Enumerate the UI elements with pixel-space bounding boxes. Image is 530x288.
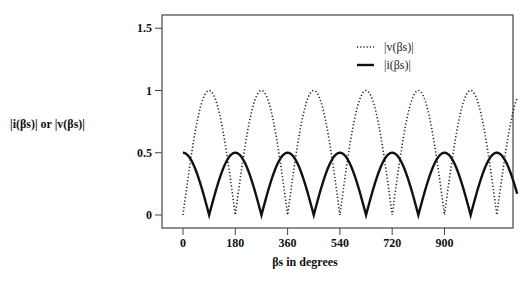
legend: |v(βs)| |i(βs)| — [357, 40, 414, 72]
y-tick-label: 1 — [146, 84, 152, 98]
x-tick-label: 900 — [436, 236, 454, 250]
legend-label-i: |i(βs)| — [384, 58, 411, 72]
x-tick-label: 360 — [279, 236, 297, 250]
chart: 00.511.5 0180360540720900 |v(βs)| |i(βs)… — [0, 0, 530, 288]
y-tick-label: 1.5 — [137, 21, 152, 35]
legend-label-v: |v(βs)| — [384, 40, 414, 54]
x-tick-label: 0 — [180, 236, 186, 250]
y-tick-label: 0.5 — [137, 146, 152, 160]
x-axis-ticks: 0180360540720900 — [180, 228, 454, 250]
y-axis-ticks: 00.511.5 — [137, 21, 162, 222]
x-tick-label: 540 — [331, 236, 349, 250]
y-axis-title: |i(βs)| or |v(βs)| — [10, 117, 85, 131]
x-tick-label: 720 — [383, 236, 401, 250]
x-tick-label: 180 — [226, 236, 244, 250]
y-tick-label: 0 — [146, 208, 152, 222]
x-axis-title: βs in degrees — [272, 255, 338, 269]
series-i-line — [183, 153, 517, 215]
